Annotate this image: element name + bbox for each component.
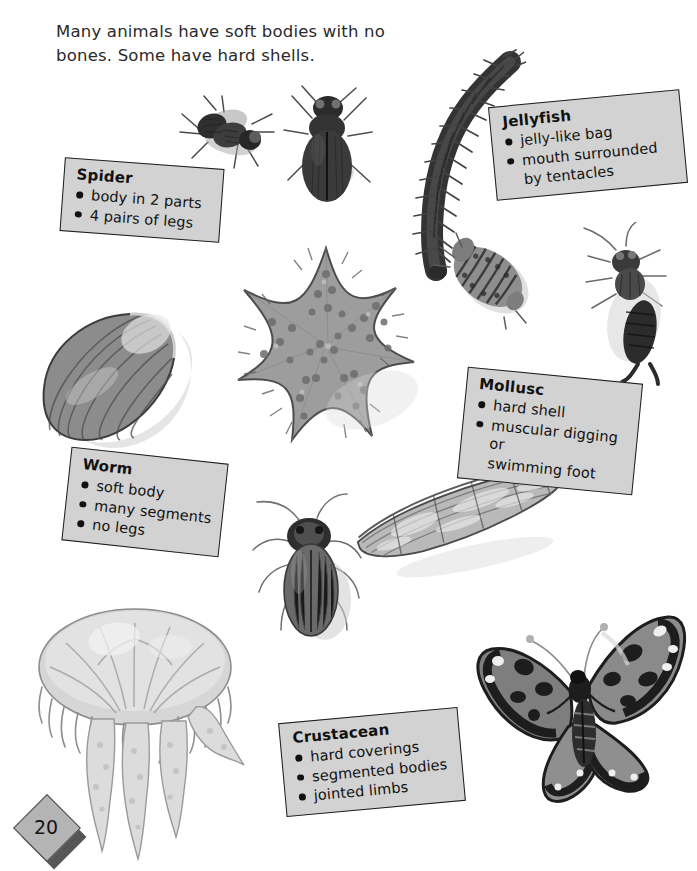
starfish-illustration bbox=[222, 240, 432, 455]
page-number-badge: 20 bbox=[14, 790, 90, 866]
fact-box-worm[interactable]: Worm soft body many segments no legs bbox=[61, 447, 228, 557]
fact-list: soft body many segments no legs bbox=[75, 475, 214, 547]
earwig-illustration bbox=[562, 222, 687, 387]
intro-text: Many animals have soft bodies with no bo… bbox=[56, 20, 386, 68]
mussel-shell-illustration bbox=[22, 300, 212, 460]
butterfly-illustration bbox=[462, 605, 697, 810]
page-number-label: 20 bbox=[23, 804, 69, 850]
fact-list: hard coverings segmented bodies jointed … bbox=[294, 735, 455, 807]
fact-list: body in 2 parts 4 pairs of legs bbox=[73, 185, 211, 233]
woodlouse-illustration bbox=[432, 225, 547, 330]
fact-list: hard shell muscular digging or swimming … bbox=[471, 395, 630, 486]
page-canvas: Many animals have soft bodies with no bo… bbox=[0, 0, 697, 871]
beetle-illustration bbox=[272, 78, 382, 223]
fact-box-mollusc[interactable]: Mollusc hard shell muscular digging or s… bbox=[457, 367, 643, 496]
fact-box-crustacean[interactable]: Crustacean hard coverings segmented bodi… bbox=[278, 707, 466, 817]
fact-box-spider[interactable]: Spider body in 2 parts 4 pairs of legs bbox=[59, 157, 224, 243]
fact-box-jellyfish[interactable]: Jellyfish jelly-like bag mouth surrounde… bbox=[488, 89, 688, 201]
